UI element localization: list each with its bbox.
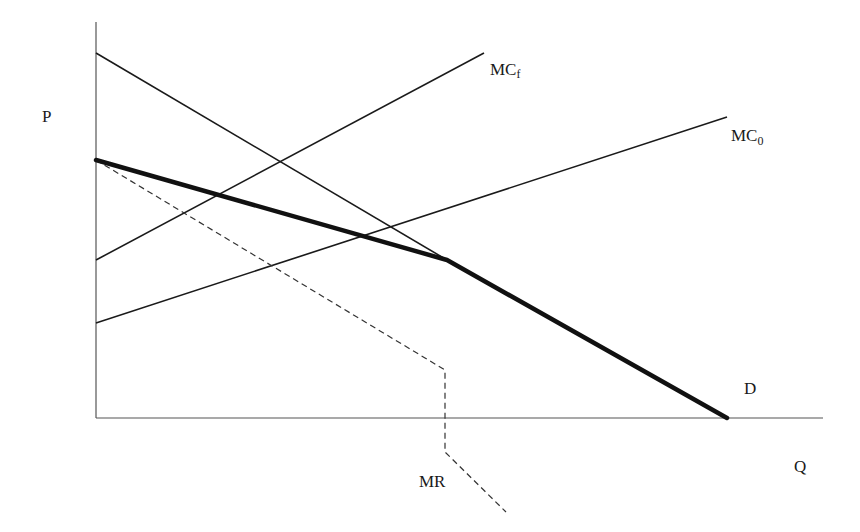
demand-line-upper — [96, 53, 447, 260]
kinked-demand-line — [96, 160, 727, 418]
q-axis-label: Q — [794, 457, 806, 476]
mc0-label: MC0 — [731, 126, 763, 148]
mr-label: MR — [419, 472, 446, 491]
mc0-line — [96, 117, 727, 323]
mr-line — [96, 160, 506, 512]
demand-label: D — [744, 379, 756, 398]
mcf-line — [96, 53, 484, 260]
kinked-demand-diagram: P Q MCf MC0 D MR — [0, 0, 860, 532]
mcf-label: MCf — [490, 60, 520, 81]
p-axis-label: P — [42, 107, 51, 126]
